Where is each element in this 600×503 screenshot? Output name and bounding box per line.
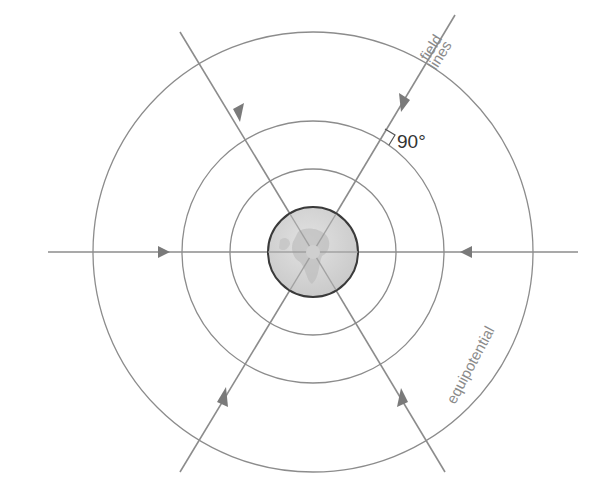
arrow-left [158,246,170,258]
gravitational-field-diagram: 90° field lines equipotential [0,0,600,503]
right-angle-marker [385,129,395,145]
arrow-upper-right [399,93,410,112]
earth [268,207,358,297]
angle-label: 90° [397,131,426,152]
arrow-lower-right [397,388,408,407]
equipotential-label: equipotential [443,323,498,406]
arrow-right [460,246,472,258]
arrow-upper-left [233,103,244,122]
arrow-lower-left [217,387,228,407]
